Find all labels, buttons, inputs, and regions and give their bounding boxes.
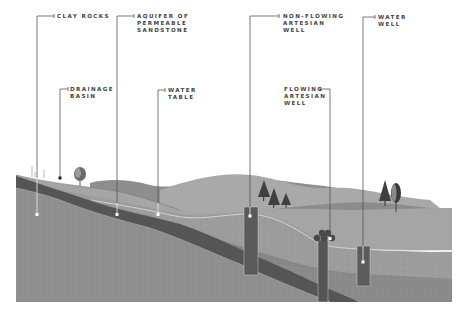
tree-icon bbox=[74, 167, 86, 186]
label-aquifer: AQUIFER OF PERMEABLE SANDSTONE bbox=[137, 13, 189, 34]
water-well bbox=[357, 246, 370, 286]
label-water-well: WATER WELL bbox=[378, 14, 407, 28]
grass-icon bbox=[32, 166, 44, 178]
artesian-well-diagram: CLAY ROCKS AQUIFER OF PERMEABLE SANDSTON… bbox=[0, 0, 468, 321]
label-flowing-artesian-well: FLOWING ARTESIAN WELL bbox=[284, 86, 326, 107]
cross-section-illustration bbox=[0, 0, 468, 321]
label-drainage-basin: DRAINAGE BASIN bbox=[70, 86, 114, 100]
label-clay-rocks: CLAY ROCKS bbox=[57, 13, 110, 20]
label-non-flowing-artesian-well: NON-FLOWING ARTESIAN WELL bbox=[283, 13, 344, 34]
label-water-table: WATER TABLE bbox=[168, 87, 197, 101]
